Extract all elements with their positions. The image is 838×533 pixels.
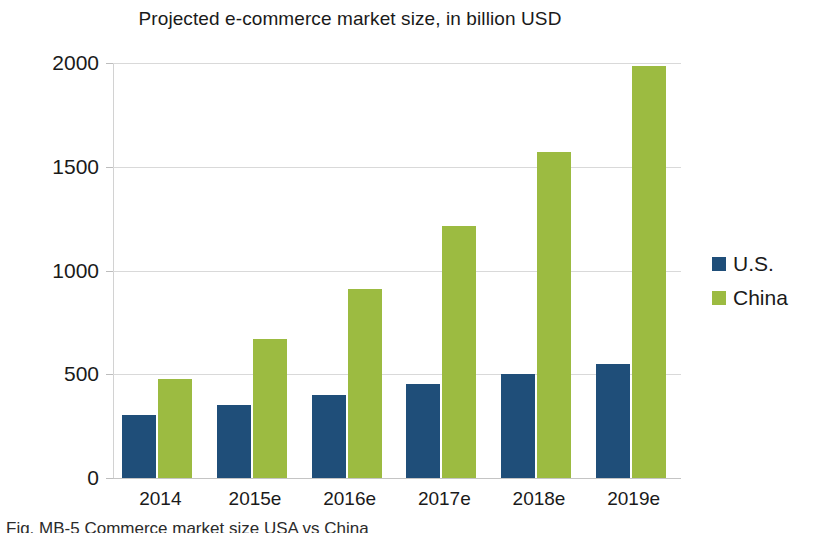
y-axis-tick — [106, 63, 113, 64]
bar-group: 2019e — [586, 63, 681, 478]
y-axis-tick-label: 1500 — [52, 155, 99, 179]
x-axis-tick-label: 2014 — [113, 488, 208, 510]
bar-us-2014[interactable] — [122, 415, 156, 478]
bar-group: 2014 — [113, 63, 208, 478]
x-axis-tick-label: 2019e — [586, 488, 681, 510]
chart-title: Projected e-commerce market size, in bil… — [0, 8, 700, 30]
bottom-caption: Fig. MB-5 Commerce market size USA vs Ch… — [6, 519, 369, 533]
bar-china-2014[interactable] — [158, 379, 192, 478]
bar-china-2015e[interactable] — [253, 339, 287, 478]
bar-group: 2016e — [302, 63, 397, 478]
bar-china-2017e[interactable] — [442, 226, 476, 478]
bar-us-2015e[interactable] — [217, 405, 251, 478]
y-axis-tick-label: 500 — [64, 362, 99, 386]
y-axis-tick-label: 2000 — [52, 51, 99, 75]
chart-container: Projected e-commerce market size, in bil… — [0, 0, 838, 533]
bar-us-2019e[interactable] — [596, 364, 630, 478]
legend-item-us[interactable]: U.S. — [712, 247, 788, 281]
legend-label: U.S. — [733, 252, 774, 276]
bar-group: 2017e — [397, 63, 492, 478]
bar-china-2018e[interactable] — [537, 152, 571, 478]
x-axis-tick-label: 2015e — [208, 488, 303, 510]
bar-us-2017e[interactable] — [406, 384, 440, 478]
bar-us-2016e[interactable] — [312, 395, 346, 478]
x-axis-tick-label: 2018e — [492, 488, 587, 510]
legend-label: China — [733, 286, 788, 310]
y-axis-tick-label: 1000 — [52, 259, 99, 283]
plot-area: 050010001500200020142015e2016e2017e2018e… — [113, 63, 681, 478]
bar-group: 2015e — [208, 63, 303, 478]
bar-us-2018e[interactable] — [501, 374, 535, 478]
bar-china-2016e[interactable] — [348, 289, 382, 478]
y-axis-tick — [106, 478, 113, 479]
gridline: 0 — [113, 478, 681, 479]
x-axis-tick-label: 2016e — [302, 488, 397, 510]
y-axis-tick — [106, 271, 113, 272]
bar-group: 2018e — [492, 63, 587, 478]
y-axis-tick-label: 0 — [87, 466, 99, 490]
legend-item-china[interactable]: China — [712, 281, 788, 315]
y-axis-tick — [106, 374, 113, 375]
x-axis-tick-label: 2017e — [397, 488, 492, 510]
chart-legend: U.S.China — [712, 247, 788, 315]
bar-china-2019e[interactable] — [632, 66, 666, 478]
y-axis-tick — [106, 167, 113, 168]
legend-color-swatch — [712, 257, 726, 271]
legend-color-swatch — [712, 291, 726, 305]
